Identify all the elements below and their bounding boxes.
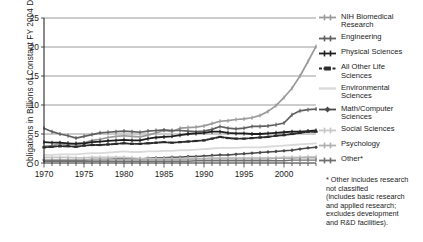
x-tick-label: 1990: [195, 169, 214, 179]
series-marker: [234, 138, 237, 140]
legend-swatch-icon: [318, 83, 337, 94]
series-marker: [250, 151, 254, 155]
legend-item[interactable]: Engineering: [318, 33, 423, 45]
x-axis-tick-labels: 1970197519801985199019952000: [35, 169, 294, 179]
series-marker: [274, 150, 278, 154]
legend-swatch-icon: [318, 155, 337, 166]
x-tick-label: 2000: [275, 169, 294, 179]
legend-label: NIH Biomedical Research: [341, 12, 393, 30]
series-marker: [274, 135, 277, 137]
y-tick-label: 10: [30, 100, 40, 110]
series-marker: [258, 136, 261, 138]
series-marker: [282, 149, 286, 153]
x-tick-label: 1970: [35, 169, 54, 179]
gridlines: [44, 18, 316, 134]
legend-item[interactable]: Physical Sciences: [318, 48, 423, 60]
legend: NIH Biomedical ResearchEngineeringPhysic…: [318, 12, 423, 170]
series-marker: [290, 148, 294, 152]
series-marker: [298, 147, 302, 151]
y-axis-tick-labels: 0510152025: [30, 13, 44, 168]
legend-item[interactable]: Environmental Sciences: [318, 83, 423, 101]
legend-label: Other*: [341, 155, 363, 164]
legend-swatch-icon: [318, 48, 337, 59]
line-chart-svg: 0510152025 1970197519801985199019952000: [18, 8, 318, 190]
series-marker: [186, 140, 189, 142]
legend-swatch-icon: [318, 12, 337, 23]
series-marker: [82, 145, 85, 147]
legend-swatch-icon: [318, 33, 337, 44]
x-tick-label: 1980: [115, 169, 134, 179]
legend-label: Environmental Sciences: [341, 83, 390, 101]
legend-label: Psychology: [341, 140, 380, 149]
series-marker: [242, 152, 246, 156]
y-tick-label: 25: [30, 13, 40, 23]
legend-label: Engineering: [341, 33, 382, 42]
series-marker: [234, 152, 238, 156]
footnote-other-definition: * Other includes research not classified…: [326, 176, 423, 227]
series-marker: [242, 138, 245, 140]
series-marker: [226, 137, 229, 139]
series-marker: [194, 140, 197, 142]
legend-item[interactable]: NIH Biomedical Research: [318, 12, 423, 30]
series-marker: [258, 151, 262, 155]
series-marker: [218, 136, 221, 138]
y-tick-label: 0: [34, 158, 39, 168]
series-marker: [266, 136, 269, 138]
series-marker: [162, 141, 165, 143]
series-marker: [90, 144, 93, 146]
series-marker: [178, 141, 181, 143]
series-marker: [306, 146, 310, 150]
series-marker: [130, 143, 133, 145]
series-marker: [114, 143, 117, 145]
data-series-layer: [42, 44, 318, 163]
series-marker: [154, 142, 157, 144]
series-marker: [210, 138, 213, 140]
legend-swatch-icon: [318, 104, 337, 115]
x-tick-label: 1995: [235, 169, 254, 179]
series-marker: [98, 144, 101, 146]
series-marker: [74, 146, 77, 148]
series-marker: [146, 142, 149, 144]
series-marker: [66, 145, 69, 147]
legend-item[interactable]: Psychology: [318, 140, 423, 152]
series-marker: [282, 134, 285, 136]
series-marker: [202, 139, 205, 141]
y-tick-label: 5: [34, 129, 39, 139]
x-tick-label: 1985: [155, 169, 174, 179]
legend-swatch-icon: [318, 125, 337, 136]
y-tick-label: 15: [30, 71, 40, 81]
series-marker: [50, 146, 53, 148]
legend-item[interactable]: Other*: [318, 155, 423, 167]
plot-area: 0510152025 1970197519801985199019952000: [18, 8, 318, 190]
legend-item[interactable]: Social Sciences: [318, 125, 423, 137]
legend-swatch-icon: [318, 63, 337, 74]
x-axis-ticks: [44, 163, 316, 168]
legend-label: Math/Computer Sciences: [341, 104, 393, 122]
series-marker: [306, 131, 309, 133]
legend-item[interactable]: All Other Life Sciences: [318, 63, 423, 81]
series-marker: [138, 143, 141, 145]
series-marker: [106, 143, 109, 145]
legend-label: All Other Life Sciences: [341, 63, 385, 81]
legend-label: Social Sciences: [341, 125, 395, 134]
x-tick-label: 1975: [75, 169, 94, 179]
chart-figure: Obligations in Billions of Constant FY 2…: [0, 0, 423, 242]
y-tick-label: 20: [30, 42, 40, 52]
series-marker: [290, 133, 293, 135]
series-marker: [122, 142, 125, 144]
legend-swatch-icon: [318, 140, 337, 151]
series-marker: [170, 142, 173, 144]
series-marker: [298, 132, 301, 134]
series-marker: [250, 137, 253, 139]
series-marker: [266, 150, 270, 154]
legend-label: Physical Sciences: [341, 48, 402, 57]
legend-item[interactable]: Math/Computer Sciences: [318, 104, 423, 122]
series-marker: [58, 145, 61, 147]
